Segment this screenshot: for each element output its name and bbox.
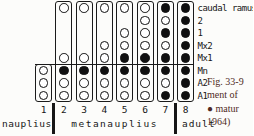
circle-mature bbox=[79, 66, 89, 76]
circle-immature bbox=[100, 3, 110, 13]
circle-immature bbox=[100, 78, 110, 88]
circle-immature bbox=[59, 91, 69, 101]
stage-group-label: metanauplius bbox=[71, 118, 158, 129]
figure-caption: Fig. 33-9ment of● matur1964) bbox=[207, 75, 244, 129]
row-label: caudal ramus bbox=[198, 3, 254, 13]
stage-number: 8 bbox=[176, 104, 196, 115]
circle-mature bbox=[161, 3, 171, 13]
figure-caption-line: ment of bbox=[207, 88, 244, 101]
stage-number: 2 bbox=[54, 104, 74, 115]
circle-immature bbox=[79, 91, 89, 101]
circle-immature bbox=[140, 78, 150, 88]
circle-immature bbox=[140, 28, 150, 38]
circle-immature bbox=[140, 41, 150, 51]
circle-mature bbox=[140, 66, 150, 76]
figure-caption-line: 1964) bbox=[207, 115, 244, 128]
circle-mature bbox=[181, 28, 191, 38]
circle-mature bbox=[161, 28, 171, 38]
stage-number: 4 bbox=[94, 104, 114, 115]
circle-immature bbox=[140, 91, 150, 101]
circle-immature bbox=[79, 78, 89, 88]
figure-caption-line: Fig. 33-9 bbox=[207, 75, 244, 88]
row-label: A2 bbox=[198, 78, 208, 88]
row-label: A1 bbox=[198, 91, 208, 101]
circle-immature bbox=[39, 78, 49, 88]
circle-mature bbox=[140, 53, 150, 63]
stage-number: 7 bbox=[155, 104, 175, 115]
stage-number: 1 bbox=[34, 104, 54, 115]
circle-mature bbox=[181, 53, 191, 63]
circle-immature bbox=[59, 78, 69, 88]
stage-separator bbox=[174, 103, 177, 134]
row-label: Mn bbox=[198, 66, 208, 76]
circle-mature bbox=[59, 66, 69, 76]
figure-caption-line: ● matur bbox=[207, 102, 244, 115]
stage-number: 3 bbox=[74, 104, 94, 115]
row-label: Mx1 bbox=[198, 53, 213, 63]
circle-mature bbox=[161, 53, 171, 63]
circle-immature bbox=[140, 16, 150, 26]
circle-immature bbox=[100, 53, 110, 63]
stage-number: 5 bbox=[115, 104, 135, 115]
circle-mature bbox=[181, 78, 191, 88]
circle-mature bbox=[181, 3, 191, 13]
row-label: Mx2 bbox=[198, 41, 213, 51]
row-label: 2 bbox=[198, 16, 203, 26]
circle-immature bbox=[161, 78, 171, 88]
row-label: 1 bbox=[198, 28, 203, 38]
circle-immature bbox=[140, 3, 150, 13]
baseline-rule bbox=[35, 64, 194, 66]
circle-immature bbox=[59, 3, 69, 13]
stage-separator bbox=[52, 103, 55, 134]
circle-immature bbox=[59, 53, 69, 63]
figure-33-9: caudal ramus21Mx2Mx1MnA2A112345678naupli… bbox=[0, 0, 253, 136]
stage-group-label: nauplius bbox=[2, 118, 52, 129]
circle-immature bbox=[79, 53, 89, 63]
circle-immature bbox=[79, 3, 89, 13]
stage-number: 6 bbox=[135, 104, 155, 115]
